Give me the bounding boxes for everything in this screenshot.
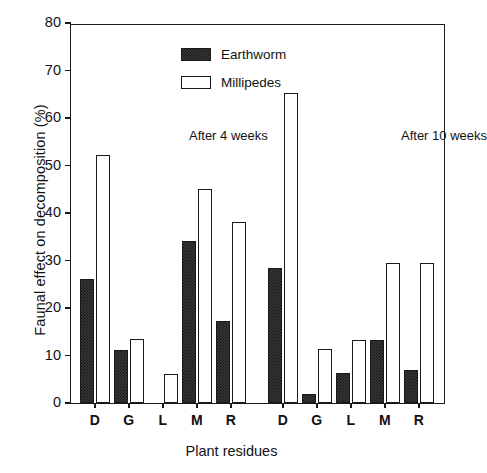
y-tick-mark — [65, 307, 71, 309]
x-tick-label: D — [267, 412, 299, 428]
x-tick-mark — [350, 403, 352, 408]
x-tick-mark — [316, 403, 318, 408]
y-tick-label: 80 — [45, 14, 61, 30]
bar-earthworm-4w-r — [216, 321, 230, 403]
y-tick-label: 70 — [45, 62, 61, 78]
bar-millipedes-4w-l — [164, 374, 178, 403]
legend-label: Earthworm — [221, 47, 286, 62]
legend-swatch-millipedes-icon — [181, 76, 211, 89]
x-tick-label: L — [147, 412, 179, 428]
x-tick-mark — [282, 403, 284, 408]
y-tick-label: 20 — [45, 299, 61, 315]
y-tick-label: 60 — [45, 109, 61, 125]
plot-area: 01020304050607080 DGLMRDGLMR EarthwormMi… — [70, 24, 445, 404]
bar-earthworm-4w-d — [80, 279, 94, 403]
y-tick-mark — [65, 165, 71, 167]
bar-millipedes-10w-l — [352, 340, 366, 403]
x-tick-label: G — [301, 412, 333, 428]
x-tick-label: G — [113, 412, 145, 428]
x-axis-title: Plant residues — [0, 443, 463, 459]
legend-swatch-earthworm-icon — [181, 48, 211, 61]
x-tick-mark — [418, 403, 420, 408]
bar-earthworm-10w-g — [302, 394, 316, 404]
x-tick-mark — [162, 403, 164, 408]
x-tick-mark — [384, 403, 386, 408]
bar-millipedes-4w-g — [130, 339, 144, 403]
x-tick-label: D — [79, 412, 111, 428]
panel-note-10-weeks: After 10 weeks — [401, 128, 487, 143]
bar-earthworm-10w-l — [336, 373, 350, 403]
y-tick-mark — [65, 117, 71, 119]
x-tick-mark — [94, 403, 96, 408]
bar-millipedes-10w-g — [318, 349, 332, 403]
x-tick-label: R — [215, 412, 247, 428]
bar-millipedes-10w-m — [386, 263, 400, 403]
y-tick-label: 40 — [45, 204, 61, 220]
x-tick-mark — [230, 403, 232, 408]
y-tick-mark — [65, 70, 71, 72]
bar-millipedes-10w-d — [284, 93, 298, 403]
x-tick-label: L — [335, 412, 367, 428]
legend-item-millipedes: Millipedes — [181, 71, 286, 93]
y-tick-mark — [65, 260, 71, 262]
x-tick-label: M — [369, 412, 401, 428]
y-tick-label: 0 — [53, 394, 61, 410]
chart-legend: EarthwormMillipedes — [181, 43, 286, 99]
panel-note-4-weeks: After 4 weeks — [189, 128, 268, 143]
legend-label: Millipedes — [221, 75, 281, 90]
y-tick-label: 50 — [45, 157, 61, 173]
y-tick-mark — [65, 402, 71, 404]
bar-earthworm-10w-r — [404, 370, 418, 403]
bar-millipedes-10w-r — [420, 263, 434, 403]
x-tick-label: M — [181, 412, 213, 428]
bar-millipedes-4w-m — [198, 189, 212, 403]
legend-item-earthworm: Earthworm — [181, 43, 286, 65]
y-tick-mark — [65, 22, 71, 24]
y-tick-mark — [65, 355, 71, 357]
x-tick-mark — [128, 403, 130, 408]
bar-earthworm-4w-m — [182, 241, 196, 403]
bar-earthworm-10w-m — [370, 340, 384, 403]
bar-millipedes-4w-r — [232, 222, 246, 403]
y-tick-label: 10 — [45, 347, 61, 363]
bar-earthworm-10w-d — [268, 268, 282, 403]
y-tick-label: 30 — [45, 252, 61, 268]
y-tick-mark — [65, 212, 71, 214]
x-tick-label: R — [403, 412, 435, 428]
bar-earthworm-4w-g — [114, 350, 128, 403]
bar-millipedes-4w-d — [96, 155, 110, 403]
x-tick-mark — [196, 403, 198, 408]
